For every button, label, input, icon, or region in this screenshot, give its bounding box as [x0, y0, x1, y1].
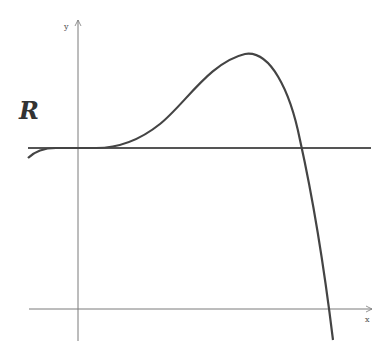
function-curve	[28, 54, 333, 340]
x-axis-label: x	[365, 315, 370, 324]
region-label: R	[19, 96, 39, 125]
y-axis	[75, 20, 81, 341]
x-axis	[29, 306, 372, 312]
diagram-canvas: R y x	[0, 0, 389, 360]
graph-svg	[0, 0, 389, 360]
y-axis-label: y	[64, 22, 69, 31]
